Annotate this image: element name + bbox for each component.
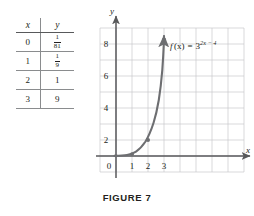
y-axis-label: y (109, 6, 114, 16)
table-row: 0 1 81 (16, 33, 74, 52)
data-point (162, 38, 166, 42)
cell-y: 1 81 (40, 33, 74, 52)
cell-x: 2 (16, 71, 40, 90)
x-tick-label: 2 (146, 161, 151, 171)
data-point (114, 154, 117, 157)
y-tick-label: 2 (104, 135, 109, 145)
graph-panel: x y 8 6 4 2 0 1 2 3 f(x)=32x − 4 (90, 2, 254, 188)
cell-y: 1 9 (40, 52, 74, 71)
function-curve (115, 36, 165, 156)
table-row: 3 9 (16, 90, 74, 109)
x-tick-label: 3 (162, 161, 167, 171)
cell-y: 9 (40, 90, 74, 109)
table-header-x: x (16, 18, 40, 33)
x-tick-label: 1 (130, 161, 135, 171)
cell-x: 1 (16, 52, 40, 71)
table-row: 1 1 9 (16, 52, 74, 71)
y-tick-label: 6 (104, 71, 109, 81)
x-tick-label: 0 (107, 161, 112, 171)
y-tick-label: 4 (104, 103, 109, 113)
fraction-denominator: 9 (55, 62, 61, 70)
table-header-row: x y (16, 18, 74, 33)
cell-x: 0 (16, 33, 40, 52)
data-point (146, 138, 150, 142)
figure-caption: FIGURE 7 (0, 192, 254, 203)
fraction: 1 9 (55, 53, 61, 69)
cell-x: 3 (16, 90, 40, 109)
value-table: x y 0 1 81 1 1 9 2 1 3 9 (16, 18, 74, 109)
function-exponent: 2x − 4 (200, 39, 216, 46)
x-axis-label: x (245, 145, 250, 155)
y-tick-label: 8 (104, 39, 109, 49)
function-equals: = (188, 41, 193, 51)
function-arg: (x) (174, 41, 185, 51)
fraction: 1 81 (54, 34, 61, 50)
data-point (130, 152, 134, 156)
table-row: 2 1 (16, 71, 74, 90)
table-header-y: y (40, 18, 74, 33)
fraction-denominator: 81 (54, 43, 61, 51)
function-label: f(x)=32x − 4 (170, 39, 216, 51)
cell-y: 1 (40, 71, 74, 90)
